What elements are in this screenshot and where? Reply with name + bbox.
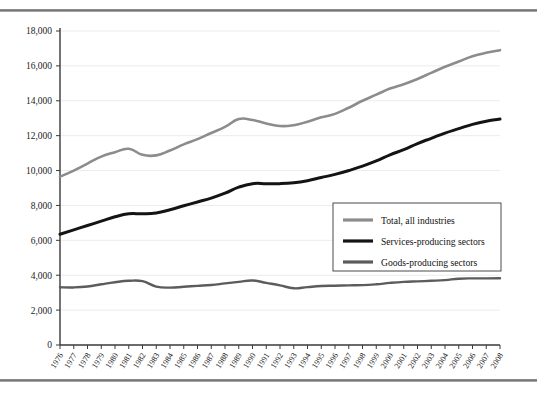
legend-label: Goods-producing sectors xyxy=(381,257,477,268)
x-axis-label: 2007 xyxy=(475,351,491,370)
x-axis-label: 1980 xyxy=(104,351,120,370)
line-chart-figure: 02,0004,0006,0008,00010,00012,00014,0001… xyxy=(0,14,537,376)
x-axis-label: 1989 xyxy=(228,351,244,370)
x-axis-label: 1982 xyxy=(131,351,147,370)
x-axis-label: 2003 xyxy=(420,351,436,370)
x-axis-label: 1993 xyxy=(283,351,299,370)
y-axis-label: 0 xyxy=(47,340,52,350)
x-axis-label: 1992 xyxy=(269,351,285,370)
x-axis-label: 2004 xyxy=(434,351,450,370)
y-axis-label: 8,000 xyxy=(31,201,53,211)
chart-legend: Total, all industriesServices-producing … xyxy=(333,203,501,271)
series-line-goods-producing-sectors xyxy=(60,278,500,288)
y-axis-label: 14,000 xyxy=(26,96,52,106)
x-axis-labels-group: 1976197719781979198019811982198319841985… xyxy=(49,351,505,370)
y-axis-label: 10,000 xyxy=(26,166,52,176)
x-axis-label: 1981 xyxy=(118,351,134,370)
x-axis-label: 2006 xyxy=(461,351,477,370)
legend-label: Total, all industries xyxy=(381,215,455,226)
x-axis-label: 2005 xyxy=(448,351,464,370)
y-axis-label: 12,000 xyxy=(26,131,52,141)
bottom-divider-rule xyxy=(0,379,537,382)
x-axis-label: 1985 xyxy=(173,351,189,370)
y-axis-label: 4,000 xyxy=(31,271,53,281)
y-axis-label: 16,000 xyxy=(26,61,52,71)
x-axis-label: 1977 xyxy=(63,351,79,370)
x-axis-label: 1994 xyxy=(296,351,312,370)
x-axis-label: 2008 xyxy=(489,351,505,370)
x-axis-label: 1986 xyxy=(186,351,202,370)
y-axis-label: 18,000 xyxy=(26,26,52,36)
x-axis-label: 2000 xyxy=(379,351,395,370)
x-axis-label: 1997 xyxy=(338,351,354,370)
y-axis-label: 6,000 xyxy=(31,236,53,246)
x-axis-label: 1996 xyxy=(324,351,340,370)
chart-canvas: 02,0004,0006,0008,00010,00012,00014,0001… xyxy=(0,14,537,376)
x-axis-label: 1976 xyxy=(49,351,65,370)
x-axis-label: 1984 xyxy=(159,351,175,370)
x-axis-label: 1998 xyxy=(351,351,367,370)
x-axis-label: 1991 xyxy=(255,351,271,370)
x-axis-label: 2001 xyxy=(393,351,409,370)
x-axis-label: 1988 xyxy=(214,351,230,370)
x-axis-label: 1990 xyxy=(241,351,257,370)
legend-label: Services-producing sectors xyxy=(381,236,485,247)
x-axis-label: 1978 xyxy=(76,351,92,370)
x-axis-label: 1979 xyxy=(90,351,106,370)
y-axis-label: 2,000 xyxy=(31,306,53,316)
x-axis-label: 1999 xyxy=(365,351,381,370)
series-line-total-all-industries xyxy=(60,50,500,176)
x-axis-label: 2002 xyxy=(406,351,422,370)
y-axis-labels-group: 02,0004,0006,0008,00010,00012,00014,0001… xyxy=(26,26,52,350)
x-axis-label: 1987 xyxy=(200,351,216,370)
top-divider-rule xyxy=(0,9,537,12)
x-axis-label: 1983 xyxy=(145,351,161,370)
x-axis-label: 1995 xyxy=(310,351,326,370)
